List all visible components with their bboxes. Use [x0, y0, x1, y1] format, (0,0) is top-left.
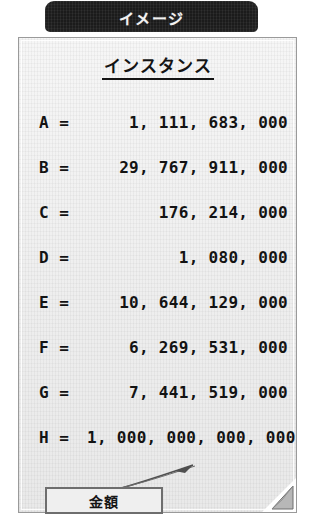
- row-label: H =: [39, 428, 87, 447]
- table-row: F = 6, 269, 531, 000: [39, 325, 288, 370]
- table-row: D = 1, 080, 000: [39, 235, 288, 280]
- table-row: A = 1, 111, 683, 000: [39, 100, 288, 145]
- row-label: C =: [39, 203, 87, 222]
- tab-image[interactable]: イメージ: [45, 1, 258, 32]
- page-title-text: インスタンス: [102, 56, 214, 80]
- page-curl-icon: [262, 478, 296, 512]
- instance-value-list: A = 1, 111, 683, 000 B = 29, 767, 911, 0…: [39, 100, 288, 460]
- row-value: 7, 441, 519, 000: [87, 383, 288, 402]
- amount-button-label: 金額: [89, 491, 119, 511]
- tab-image-label: イメージ: [45, 6, 258, 27]
- row-value: 1, 080, 000: [87, 248, 288, 267]
- table-row: E = 10, 644, 129, 000: [39, 280, 288, 325]
- row-label: D =: [39, 248, 87, 267]
- row-label: A =: [39, 113, 87, 132]
- amount-button[interactable]: 金額: [45, 487, 163, 514]
- row-value: 1, 000, 000, 000, 000: [87, 428, 296, 447]
- table-row: B = 29, 767, 911, 000: [39, 145, 288, 190]
- table-row: C = 176, 214, 000: [39, 190, 288, 235]
- row-label: G =: [39, 383, 87, 402]
- row-value: 10, 644, 129, 000: [87, 293, 288, 312]
- row-value: 1, 111, 683, 000: [87, 113, 288, 132]
- row-label: E =: [39, 293, 87, 312]
- table-row: G = 7, 441, 519, 000: [39, 370, 288, 415]
- table-row: H = 1, 000, 000, 000, 000: [39, 415, 288, 460]
- instance-panel: インスタンス A = 1, 111, 683, 000 B = 29, 767,…: [18, 37, 297, 513]
- row-value: 29, 767, 911, 000: [87, 158, 288, 177]
- row-label: B =: [39, 158, 87, 177]
- row-value: 176, 214, 000: [87, 203, 288, 222]
- row-label: F =: [39, 338, 87, 357]
- row-value: 6, 269, 531, 000: [87, 338, 288, 357]
- page-title: インスタンス: [19, 52, 296, 77]
